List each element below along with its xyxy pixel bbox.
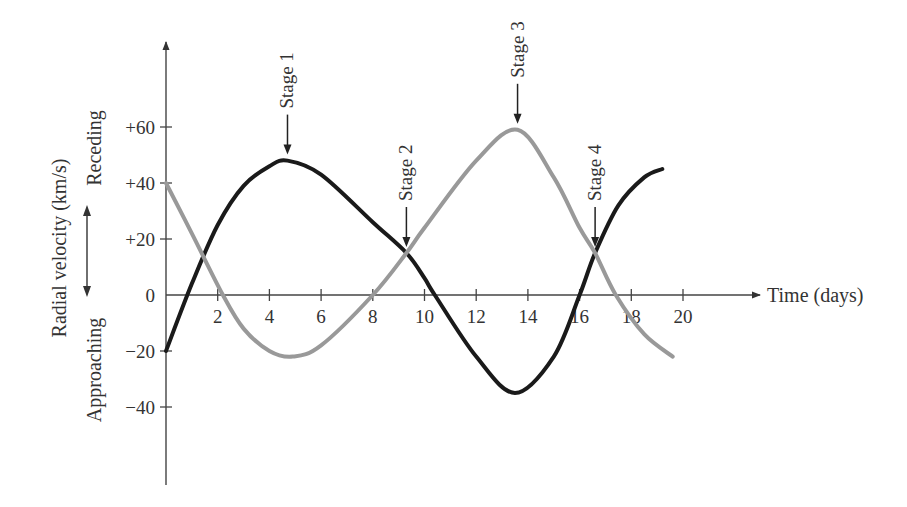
y-tick-label: +60 <box>125 117 155 138</box>
stage-label: Stage 2 <box>395 145 416 201</box>
y-axis-ticks: +60+40+200−20−40 <box>125 117 172 418</box>
x-tick-label: 14 <box>518 306 538 327</box>
stage-label: Stage 1 <box>276 52 297 108</box>
approaching-label: Approaching <box>83 318 106 422</box>
x-tick-label: 12 <box>467 306 486 327</box>
arrow-down-icon <box>283 145 291 155</box>
stage-annotations: Stage 1Stage 2Stage 3Stage 4 <box>276 21 605 247</box>
y-axis-title: Radial velocity (km/s) <box>48 159 71 338</box>
y-tick-label: +20 <box>125 229 155 250</box>
arrow-down-icon <box>83 286 91 297</box>
y-tick-label: −40 <box>125 397 155 418</box>
stage-label: Stage 4 <box>584 144 605 201</box>
y-tick-label: +40 <box>125 173 155 194</box>
arrow-down-icon <box>402 237 410 247</box>
arrow-down-icon <box>514 114 522 124</box>
stage-label: Stage 3 <box>507 21 528 77</box>
receding-label: Receding <box>83 110 106 186</box>
x-tick-label: 10 <box>415 306 434 327</box>
direction-indicator: Receding Approaching <box>83 110 106 422</box>
y-tick-label: 0 <box>146 285 156 306</box>
arrow-up-icon <box>83 205 91 216</box>
y-tick-label: −20 <box>125 341 155 362</box>
axes: 2468101214161820 +60+40+200−20−40 <box>125 42 760 485</box>
radial-velocity-chart: 2468101214161820 +60+40+200−20−40 Time (… <box>0 0 907 507</box>
x-tick-label: 4 <box>265 306 275 327</box>
x-tick-label: 8 <box>368 306 378 327</box>
x-tick-label: 2 <box>213 306 223 327</box>
x-tick-label: 20 <box>674 306 693 327</box>
x-tick-label: 6 <box>316 306 326 327</box>
x-axis-title: Time (days) <box>767 284 863 307</box>
